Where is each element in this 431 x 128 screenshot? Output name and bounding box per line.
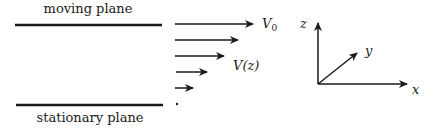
- velocity-zero-dot: [176, 103, 178, 105]
- v0-label: V0: [262, 16, 277, 33]
- v0-label-subscript: 0: [271, 23, 277, 33]
- x-axis-label: x: [412, 82, 420, 97]
- moving-plane-label: moving plane: [44, 1, 133, 16]
- couette-flow-diagram: moving plane stationary plane V0 V(z) z …: [0, 0, 431, 128]
- z-axis-label: z: [299, 16, 307, 31]
- y-axis: [318, 53, 357, 84]
- coordinate-axes: z y x: [299, 16, 420, 97]
- velocity-profile: V0 V(z): [175, 16, 277, 105]
- stationary-plane: stationary plane: [16, 105, 163, 125]
- vz-label: V(z): [233, 58, 259, 73]
- moving-plane: moving plane: [15, 1, 162, 25]
- y-axis-label: y: [364, 43, 373, 58]
- stationary-plane-label: stationary plane: [37, 110, 144, 125]
